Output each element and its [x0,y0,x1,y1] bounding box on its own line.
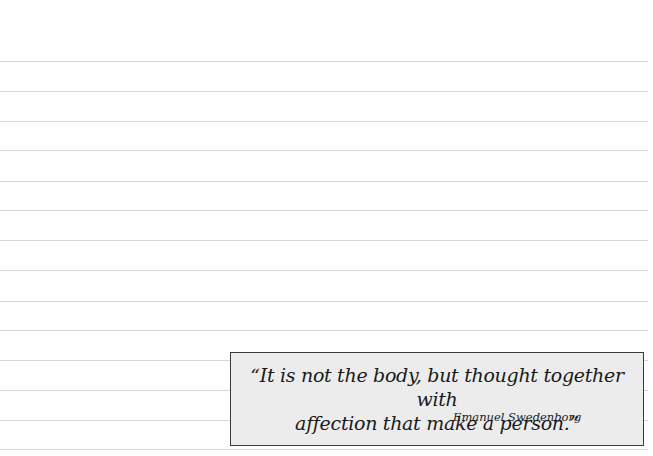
ruled-line [0,121,648,122]
ruled-line [0,240,648,241]
ruled-line [0,449,648,450]
ruled-line [0,150,648,151]
quote-text: “It is not the body, but thought togethe… [231,363,643,435]
quote-box: “It is not the body, but thought togethe… [230,352,644,446]
ruled-line [0,270,648,271]
ruled-line [0,301,648,302]
quote-line-1: “It is not the body, but thought togethe… [239,363,635,411]
ruled-line [0,91,648,92]
ruled-line [0,181,648,182]
ruled-line [0,210,648,211]
ruled-line [0,61,648,62]
quote-author: Emanuel Swedenborg [453,410,581,424]
ruled-line [0,330,648,331]
